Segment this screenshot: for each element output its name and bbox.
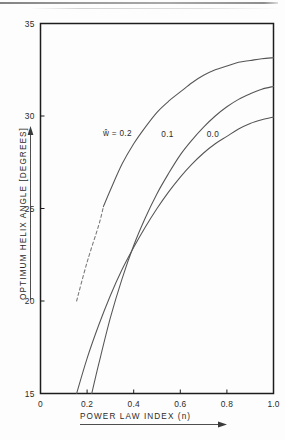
up-arrow-icon [28, 126, 34, 135]
x-tick-label: 0.6 [174, 399, 186, 409]
y-axis-title: OPTIMUM HELIX ANGLE [DEGREES] [19, 127, 28, 300]
x-axis-title-group: POWER LAW INDEX (n) [80, 412, 227, 427]
line-chart: 1520253035 00.20.40.60.81.0 ŵ = 0.20.10.… [0, 0, 285, 440]
x-tick-label: 1.0 [267, 399, 279, 409]
data-curves [77, 58, 274, 394]
curve-2 [77, 117, 274, 394]
curve-dashed-segment-0 [77, 207, 104, 301]
curve-labels: ŵ = 0.20.10.0 [102, 129, 219, 139]
curve-label-2: 0.0 [207, 130, 219, 139]
x-axis-title: POWER LAW INDEX (n) [80, 412, 191, 421]
scan-line-artifact [0, 2, 278, 4]
right-arrow-icon [218, 422, 227, 428]
y-tick-label: 15 [25, 389, 35, 399]
figure-container: 1520253035 00.20.40.60.81.0 ŵ = 0.20.10.… [0, 0, 285, 440]
y-tick-label: 35 [25, 19, 35, 29]
x-tick-label: 0.4 [128, 399, 140, 409]
x-tick-label: 0.2 [81, 399, 93, 409]
curve-label-0: ŵ = 0.2 [102, 129, 132, 138]
scan-line-artifact-secondary [30, 8, 280, 9]
x-tick-label: 0.8 [221, 399, 233, 409]
x-tick-label: 0 [38, 399, 43, 409]
x-axis-ticks: 00.20.40.60.81.0 [38, 390, 280, 409]
curve-label-1: 0.1 [161, 130, 173, 139]
y-tick-label: 30 [25, 111, 35, 121]
